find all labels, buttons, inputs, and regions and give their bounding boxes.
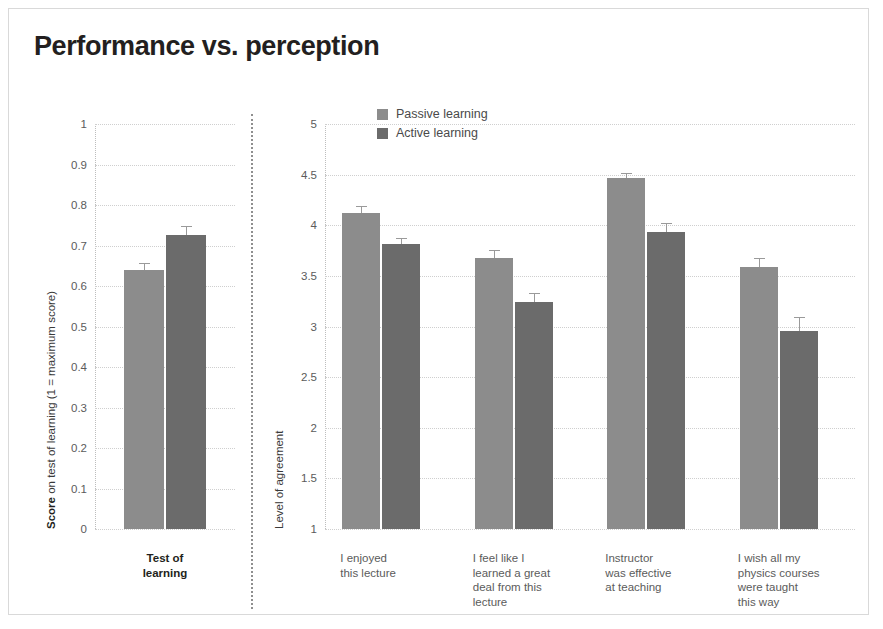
figure-card: Performance vs. perception Score on test…	[8, 8, 869, 615]
bar	[342, 213, 380, 529]
y-tick-label: 4	[281, 219, 317, 231]
bar	[515, 302, 553, 529]
gridline	[95, 286, 235, 287]
y-tick-label: 3	[281, 321, 317, 333]
x-category-label-line: was effective	[605, 566, 717, 581]
x-category-label-line: learned a great	[473, 566, 585, 581]
x-category-label-line: deal from this	[473, 580, 585, 595]
x-category-label: I wish all myphysics courseswere taughtt…	[738, 551, 850, 610]
gridline	[95, 408, 235, 409]
x-category-label-line: learning	[110, 566, 220, 581]
bar	[166, 235, 206, 529]
y-tick-label: 0.9	[51, 159, 87, 171]
x-category-label-line: I feel like I	[473, 551, 585, 566]
gridline	[95, 448, 235, 449]
x-category-label-line: this way	[738, 595, 850, 610]
error-bar-cap	[139, 263, 150, 264]
error-bar-cap	[529, 293, 540, 294]
y-tick-label: 0.1	[51, 483, 87, 495]
error-bar-cap	[794, 317, 805, 318]
error-bar-cap	[754, 258, 765, 259]
bar	[740, 267, 778, 529]
x-category-label: Instructorwas effectiveat teaching	[605, 551, 717, 595]
error-bar-cap	[621, 173, 632, 174]
legend-label: Active learning	[396, 126, 478, 140]
x-category-label-line: physics courses	[738, 566, 850, 581]
y-tick-label: 0.6	[51, 280, 87, 292]
bar	[382, 244, 420, 529]
legend-label: Passive learning	[396, 107, 488, 121]
x-category-label-line: were taught	[738, 580, 850, 595]
panel-divider	[251, 114, 253, 609]
gridline	[95, 246, 235, 247]
gridline	[325, 175, 855, 176]
legend: Passive learningActive learning	[377, 107, 488, 145]
gridline	[95, 489, 235, 490]
error-bar	[144, 263, 145, 270]
chart-test-of-learning: Score on test of learning (1 = maximum s…	[37, 104, 242, 604]
error-bar	[534, 293, 535, 302]
gridline	[325, 529, 855, 530]
page-title: Performance vs. perception	[34, 31, 379, 62]
y-tick-label: 5	[281, 118, 317, 130]
error-bar	[494, 250, 495, 258]
legend-item[interactable]: Active learning	[377, 126, 488, 140]
y-tick-label: 1	[51, 118, 87, 130]
bar	[607, 178, 645, 529]
y-tick-label: 0	[51, 523, 87, 535]
x-category-label-line: at teaching	[605, 580, 717, 595]
bar	[647, 232, 685, 529]
gridline	[95, 327, 235, 328]
x-category-label-line: this lecture	[340, 566, 452, 581]
y-tick-label: 1	[281, 523, 317, 535]
y-tick-label: 0.7	[51, 240, 87, 252]
error-bar-cap	[356, 206, 367, 207]
legend-item[interactable]: Passive learning	[377, 107, 488, 121]
x-category-label-line: I wish all my	[738, 551, 850, 566]
y-tick-label: 0.8	[51, 199, 87, 211]
gridline	[95, 529, 235, 530]
x-category-label: I enjoyedthis lecture	[340, 551, 452, 580]
x-category-label-line: I enjoyed	[340, 551, 452, 566]
legend-swatch-icon	[377, 109, 388, 120]
bar	[124, 270, 164, 529]
x-category-label-line: lecture	[473, 595, 585, 610]
y-tick-label: 2.5	[281, 371, 317, 383]
y-tick-label: 3.5	[281, 270, 317, 282]
error-bar	[759, 258, 760, 267]
y-tick-label: 0.3	[51, 402, 87, 414]
gridline	[95, 165, 235, 166]
y-tick-label: 2	[281, 422, 317, 434]
bar	[780, 331, 818, 529]
gridline	[95, 124, 235, 125]
error-bar-cap	[661, 223, 672, 224]
error-bar	[799, 317, 800, 330]
error-bar	[186, 226, 187, 235]
legend-swatch-icon	[377, 128, 388, 139]
error-bar	[361, 206, 362, 213]
error-bar-cap	[396, 238, 407, 239]
gridline	[325, 225, 855, 226]
bar	[475, 258, 513, 529]
y-tick-label: 4.5	[281, 169, 317, 181]
gridline	[95, 205, 235, 206]
x-category-label: Test oflearning	[110, 551, 220, 580]
y-tick-label: 0.4	[51, 361, 87, 373]
error-bar	[666, 223, 667, 232]
chart-level-of-agreement: Level of agreement11.522.533.544.55I enj…	[267, 104, 867, 604]
y-tick-label: 1.5	[281, 472, 317, 484]
x-category-label-line: Instructor	[605, 551, 717, 566]
x-category-label: I feel like Ilearned a greatdeal from th…	[473, 551, 585, 610]
x-category-label-line: Test of	[110, 551, 220, 566]
gridline	[95, 367, 235, 368]
error-bar-cap	[181, 226, 192, 227]
y-tick-label: 0.5	[51, 321, 87, 333]
error-bar-cap	[489, 250, 500, 251]
y-tick-label: 0.2	[51, 442, 87, 454]
